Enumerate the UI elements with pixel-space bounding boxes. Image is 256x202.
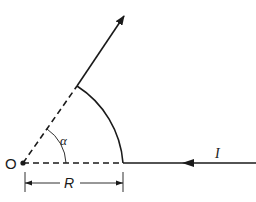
origin-point <box>20 160 25 165</box>
current-arrow-icon <box>182 159 194 167</box>
radius-label: R <box>64 175 74 191</box>
outgoing-wire <box>77 16 124 86</box>
angle-label: α <box>60 133 68 148</box>
diagram-canvas: O α R I <box>0 0 256 202</box>
current-label: I <box>214 146 221 161</box>
dashed-radius-angled <box>23 86 77 163</box>
incoming-wire <box>123 159 256 167</box>
origin-label: O <box>5 155 17 172</box>
wire-arc <box>77 86 123 163</box>
